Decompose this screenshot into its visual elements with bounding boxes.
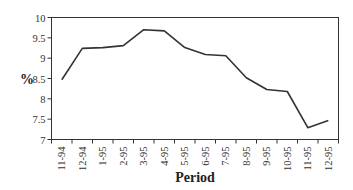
- x-tick-label: 11-94: [56, 146, 67, 171]
- y-tick-label: 8.5: [32, 74, 45, 85]
- x-tick-label: 12-94: [77, 146, 88, 171]
- x-tick-label: 4-95: [159, 147, 170, 166]
- x-axis: 11-9412-941-952-953-954-955-956-957-958-…: [52, 140, 339, 172]
- x-tick-label: 2-95: [118, 147, 129, 166]
- x-tick-label: 7-95: [220, 147, 231, 166]
- y-axis: 77.588.599.510: [32, 13, 51, 146]
- x-tick-label: 3-95: [138, 147, 149, 166]
- x-axis-title: Period: [175, 170, 215, 185]
- y-tick-label: 7: [40, 135, 45, 146]
- line-chart: 77.588.599.510 11-9412-941-952-953-954-9…: [0, 0, 353, 190]
- y-tick-label: 8: [40, 94, 45, 105]
- x-tick-label: 12-95: [323, 147, 334, 172]
- plot-area-frame: [52, 18, 339, 140]
- x-tick-label: 1-95: [97, 147, 108, 166]
- x-tick-label: 9-95: [261, 147, 272, 166]
- x-tick-label: 10-95: [282, 147, 293, 172]
- x-tick-label: 8-95: [241, 147, 252, 166]
- y-tick-label: 9.5: [32, 33, 45, 44]
- x-tick-label: 6-95: [200, 147, 211, 166]
- y-tick-label: 7.5: [32, 114, 45, 125]
- y-axis-title: %: [20, 72, 34, 87]
- x-tick-label: 5-95: [179, 147, 190, 166]
- y-tick-label: 9: [40, 53, 45, 64]
- y-tick-label: 10: [35, 13, 46, 24]
- x-tick-label: 11-95: [302, 147, 313, 171]
- data-line: [62, 30, 329, 128]
